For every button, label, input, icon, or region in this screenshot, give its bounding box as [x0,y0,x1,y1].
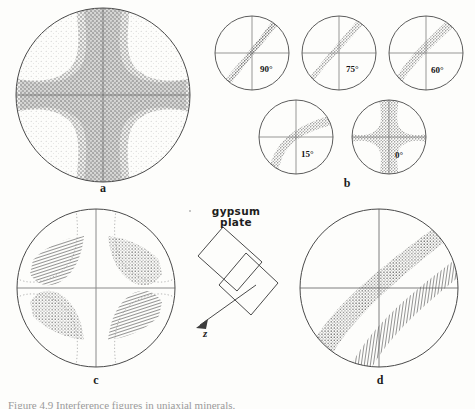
angle-label-0: 0° [395,150,404,160]
isogyre-90-taper [221,15,285,88]
panel-letter-c: c [84,373,108,388]
gypsum-plate-label: gypsum plate [200,206,272,228]
z-axis-arrow-line [200,285,256,325]
angle-label-60: 60° [431,65,444,75]
panel-b-circle-60: 60° [389,16,463,90]
panel-d-drawing [290,200,475,385]
quadrant-lower-left-stipple [30,291,84,340]
quadrant-lower-right-hatch [108,291,162,340]
isogyre-15 [267,114,335,176]
angle-label-15: 15° [301,149,314,159]
quadrant-upper-right-stipple [108,236,162,285]
panel-c-drawing [0,200,195,385]
gypsum-plate-diagram: gypsum plate z [178,205,288,355]
panel-a: a [0,0,210,190]
panel-b: 90° 75° 60° [205,0,475,190]
panel-letter-a: a [91,181,115,196]
panel-letter-d: d [368,373,392,388]
panel-d: d [290,200,475,385]
panel-c: c [0,200,195,385]
angle-label-90: 90° [260,64,273,74]
figure-root: a [0,0,475,409]
panel-b-circle-15: 15° [259,100,335,176]
figure-caption: Figure 4.9 Interference figures in uniax… [8,399,468,409]
band-yellow-stipple [294,222,460,386]
z-axis-label: z [203,327,207,339]
quadrant-upper-left-hatch [30,236,84,285]
panel-b-circle-75: 75° [302,16,376,90]
panel-b-circle-90: 90° [215,15,289,90]
angle-label-75: 75° [346,64,359,74]
panel-a-isochromes [14,6,192,184]
panel-a-drawing [0,0,210,190]
panel-d-bands [294,209,475,396]
panel-b-drawing: 90° 75° 60° [205,0,475,190]
panel-b-circle-0: 0° [350,98,428,178]
speck [189,210,191,212]
gypsum-plate-label-line2: plate [200,217,272,228]
panel-letter-b: b [335,176,359,191]
